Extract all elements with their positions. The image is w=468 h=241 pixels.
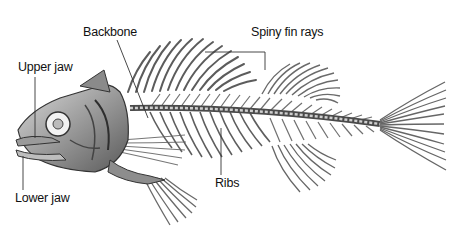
label-ribs: Ribs: [215, 176, 239, 190]
caudal-fin: [380, 82, 446, 170]
soft-dorsal-fin: [262, 63, 340, 103]
spiny-fin-rays-leader: [205, 52, 265, 70]
label-spiny-fin-rays: Spiny fin rays: [251, 25, 323, 39]
pectoral-fin: [120, 135, 186, 165]
fish-skeleton-diagram: Backbone Spiny fin rays Upper jaw Lower …: [0, 0, 468, 241]
anal-fin: [272, 144, 336, 192]
ribs: [150, 112, 270, 158]
fish-skeleton-illustration: [0, 0, 468, 241]
pelvic-fin: [145, 178, 197, 225]
spiny-dorsal-fin: [128, 39, 256, 92]
skull: [16, 70, 165, 184]
label-upper-jaw: Upper jaw: [18, 60, 72, 74]
label-lower-jaw: Lower jaw: [15, 191, 69, 205]
label-backbone: Backbone: [83, 25, 137, 39]
